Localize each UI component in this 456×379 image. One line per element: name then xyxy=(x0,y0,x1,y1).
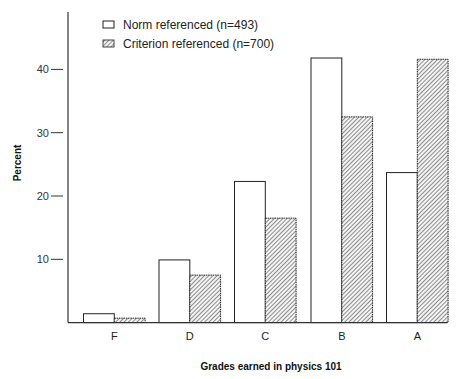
bar-criterion-F xyxy=(114,318,145,322)
bar-criterion-B xyxy=(342,117,373,323)
bar-norm-B xyxy=(311,58,342,323)
y-axis: 10203040 xyxy=(37,12,68,323)
bars xyxy=(84,58,449,323)
legend-label-norm: Norm referenced (n=493) xyxy=(123,18,258,32)
bar-norm-A xyxy=(387,173,418,323)
bar-criterion-C xyxy=(265,218,296,322)
x-category-label: A xyxy=(414,330,422,342)
y-tick-label: 30 xyxy=(37,127,49,139)
bar-norm-C xyxy=(235,181,266,322)
bar-criterion-A xyxy=(417,59,448,322)
x-category-label: C xyxy=(261,330,269,342)
legend-swatch-criterion xyxy=(103,40,114,47)
bar-norm-F xyxy=(84,314,115,323)
legend-label-criterion: Criterion referenced (n=700) xyxy=(123,37,274,51)
y-tick-label: 20 xyxy=(37,190,49,202)
y-axis-title: Percent xyxy=(12,144,23,181)
grade-distribution-chart: 10203040 FDCBA Norm referenced (n=493) C… xyxy=(0,0,456,379)
bar-norm-D xyxy=(159,260,190,323)
y-tick-label: 10 xyxy=(37,253,49,265)
x-category-label: D xyxy=(186,330,194,342)
bar-criterion-D xyxy=(190,275,221,322)
legend-swatch-norm xyxy=(103,21,114,28)
x-category-label: B xyxy=(338,330,345,342)
x-axis-title: Grades earned in physics 101 xyxy=(200,361,342,372)
legend: Norm referenced (n=493) Criterion refere… xyxy=(103,18,274,51)
x-axis: FDCBA xyxy=(68,323,447,342)
y-tick-label: 40 xyxy=(37,63,49,75)
x-category-label: F xyxy=(111,330,118,342)
